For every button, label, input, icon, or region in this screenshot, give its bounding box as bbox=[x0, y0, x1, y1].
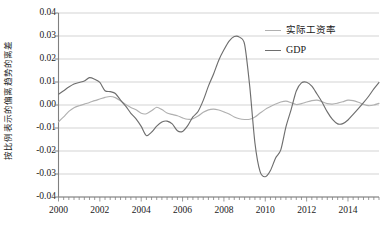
legend-label: GDP bbox=[286, 45, 306, 55]
legend-line-swatch bbox=[265, 50, 281, 51]
line-chart: 按比例表示的偏离趋势的离差 0.040.030.020.010.00-0.01-… bbox=[0, 0, 383, 235]
x-axis-minor-ticks bbox=[59, 197, 380, 202]
legend-item[interactable]: GDP bbox=[265, 42, 381, 58]
legend-item[interactable]: 实际工资率 bbox=[265, 22, 381, 38]
legend-line-swatch bbox=[265, 30, 281, 31]
legend: 实际工资率GDP bbox=[265, 22, 381, 62]
axis-major-ticks bbox=[55, 13, 59, 197]
legend-label: 实际工资率 bbox=[286, 25, 336, 35]
